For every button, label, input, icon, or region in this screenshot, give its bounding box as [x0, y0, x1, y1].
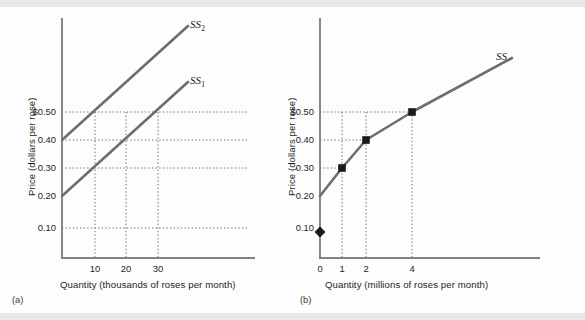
curve-label-ss1-sub: 1 — [201, 80, 205, 89]
curve-label-ss2-text: SS — [190, 18, 201, 30]
x-tick-a-10: 10 — [81, 263, 109, 274]
y-tick-a-010: 0.10 — [6, 222, 56, 233]
curve-label-ss: SS — [496, 50, 507, 62]
y-tick-b-050: $0.50 — [264, 106, 314, 117]
curve-ss-market — [320, 58, 512, 196]
y-tick-b-010: 0.10 — [264, 222, 314, 233]
x-tick-b-1: 1 — [330, 263, 354, 274]
panel-caption-b: (b) — [300, 294, 311, 305]
panel-b: Price (dollars per rose) $0.50 0.40 0.30… — [292, 0, 584, 320]
data-point-2-040 — [362, 136, 370, 144]
y-tick-a-050: $0.50 — [6, 106, 56, 117]
y-tick-b-020: 0.20 — [264, 190, 314, 201]
curve-label-ss1-text: SS — [190, 74, 201, 86]
data-point-1-030 — [338, 164, 346, 172]
y-tick-a-020: 0.20 — [6, 190, 56, 201]
curve-ss1 — [62, 82, 188, 196]
y-tick-b-040: 0.40 — [264, 134, 314, 145]
x-tick-b-0: 0 — [308, 263, 332, 274]
grid-guides-b — [320, 112, 412, 258]
grid-guides-a — [62, 112, 247, 258]
x-tick-b-4: 4 — [400, 263, 424, 274]
y-tick-a-040: 0.40 — [6, 134, 56, 145]
curve-label-ss1: SS1 — [190, 74, 205, 86]
curve-ss2 — [62, 26, 188, 140]
curve-label-ss2: SS2 — [190, 18, 205, 30]
panel-caption-a: (a) — [12, 294, 23, 305]
x-axis-title-a: Quantity (thousands of roses per month) — [60, 279, 236, 290]
x-tick-a-30: 30 — [144, 263, 172, 274]
x-tick-b-2: 2 — [354, 263, 378, 274]
curve-label-ss2-sub: 2 — [201, 24, 205, 33]
x-axis-title-b: Quantity (millions of roses per month) — [325, 279, 488, 290]
data-point-4-050 — [408, 108, 416, 116]
panel-a: Price (dollars per rose) $0.50 0.40 0.30… — [0, 0, 292, 320]
data-point-0-010 — [315, 226, 326, 237]
y-tick-a-030: 0.30 — [6, 162, 56, 173]
figure-root: Price (dollars per rose) $0.50 0.40 0.30… — [0, 0, 585, 320]
y-tick-b-030: 0.30 — [264, 162, 314, 173]
x-tick-a-20: 20 — [112, 263, 140, 274]
curve-label-ss-text: SS — [496, 50, 507, 62]
